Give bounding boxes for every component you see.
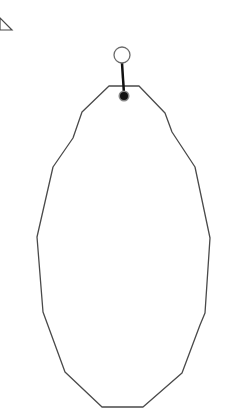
- corner-triangle-shape[interactable]: [0, 18, 12, 30]
- rotation-handle-icon[interactable]: [114, 47, 130, 63]
- drawing-canvas[interactable]: [0, 0, 229, 419]
- rotation-handle-stem: [122, 63, 124, 94]
- anchor-point-handle[interactable]: [120, 92, 128, 100]
- selected-polygon-shape[interactable]: [37, 86, 210, 407]
